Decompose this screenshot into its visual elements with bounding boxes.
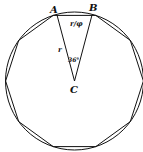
decagon-circle-diagram: A B C r/φ r 36°: [0, 0, 143, 152]
point-label-C: C: [70, 84, 78, 95]
chord-length-label: r/φ: [70, 19, 83, 28]
point-label-A: A: [49, 4, 58, 15]
side-length-label: r: [58, 45, 63, 54]
point-label-B: B: [88, 2, 97, 13]
angle-label: 36°: [68, 56, 79, 63]
